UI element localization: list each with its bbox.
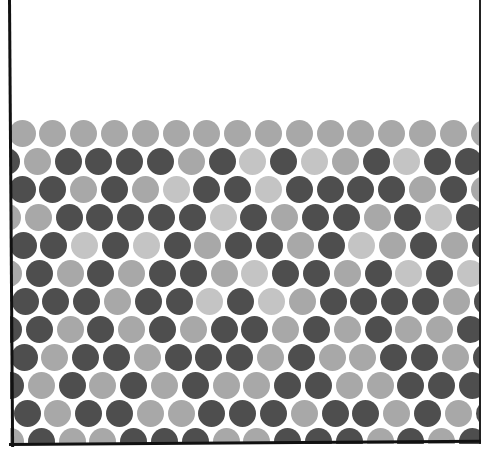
circle [72,344,99,371]
circle [426,316,453,343]
circle [349,344,376,371]
circle [393,148,420,175]
circle [455,148,479,175]
circle [182,372,209,399]
circle [334,260,361,287]
circle [440,120,467,147]
circle [137,400,164,427]
circle [117,204,144,231]
circle [165,344,192,371]
circle [10,232,37,259]
circle [57,316,84,343]
circle [411,344,438,371]
circle [151,372,178,399]
circle [363,148,390,175]
circle [286,120,313,147]
circle [193,176,220,203]
circle [441,232,468,259]
circle [457,316,479,343]
circle [270,148,297,175]
circle [286,176,313,203]
circle [365,316,392,343]
circle [257,344,284,371]
circle-packing-figure [0,0,483,454]
circle-field [10,0,479,444]
circle [414,400,441,427]
circle [39,120,66,147]
circle [209,148,236,175]
circle [239,148,266,175]
circle [101,120,128,147]
circle [347,120,374,147]
circle [59,372,86,399]
circle [274,372,301,399]
circle [10,176,36,203]
circle [394,204,421,231]
circle [424,148,451,175]
circle [194,232,221,259]
circle [352,400,379,427]
circle [134,344,161,371]
circle [381,288,408,315]
circle [322,400,349,427]
circle [11,344,38,371]
circle [103,344,130,371]
circle [198,400,225,427]
circle [348,232,375,259]
circle [56,204,83,231]
circle [241,260,268,287]
circle [164,232,191,259]
circle [472,232,480,259]
circle [116,148,143,175]
circle [227,288,254,315]
circle [26,260,53,287]
circle [163,176,190,203]
circle [288,344,315,371]
circle [26,316,53,343]
circle [426,260,453,287]
circle [12,288,39,315]
circle [211,316,238,343]
circle [179,204,206,231]
circle [193,120,220,147]
circle [443,288,470,315]
circle [132,120,159,147]
circle [241,316,268,343]
circle [39,176,66,203]
circle [272,316,299,343]
circle [442,344,469,371]
circle [133,232,160,259]
circle [147,148,174,175]
circle [471,176,480,203]
circle [303,316,330,343]
circle [41,344,68,371]
circle [71,232,98,259]
circle [258,288,285,315]
circle [178,148,205,175]
circle [378,176,405,203]
circle [332,148,359,175]
circle [255,176,282,203]
circle [25,204,52,231]
circle [213,372,240,399]
circle [301,148,328,175]
circle [347,176,374,203]
circle [86,204,113,231]
circle [211,260,238,287]
circle [224,120,251,147]
circle [180,260,207,287]
circle [303,260,330,287]
circle [397,372,424,399]
circle [75,400,102,427]
circle [409,120,436,147]
circle [104,288,131,315]
circle [317,176,344,203]
circle [317,120,344,147]
circle [229,400,256,427]
circle [70,176,97,203]
circle [148,204,175,231]
circle [135,288,162,315]
circle [412,288,439,315]
circle [180,316,207,343]
circle [57,260,84,287]
